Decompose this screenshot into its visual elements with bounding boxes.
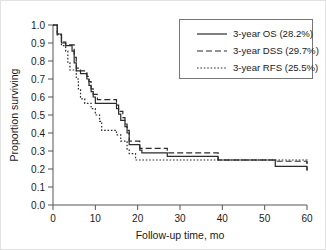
y-axis-tick-label: 0.3 (31, 146, 45, 157)
y-axis-tick-label: 0.6 (31, 92, 45, 103)
x-axis-tick-label: 40 (217, 213, 229, 224)
x-axis-tick-label: 0 (50, 213, 56, 224)
y-axis-tick-label: 0.1 (31, 182, 45, 193)
y-axis-tick-label: 0.2 (31, 164, 45, 175)
legend-label: 3-year RFS (25.5%) (233, 62, 318, 73)
x-axis-tick-label: 30 (174, 213, 186, 224)
kaplan-meier-plot: 0.00.10.20.30.40.50.60.70.80.91.0 010203… (1, 1, 326, 250)
x-axis-tick-label: 20 (132, 213, 144, 224)
legend-label: 3-year OS (28.2%) (233, 28, 313, 39)
y-axis-tick-label: 0.8 (31, 56, 45, 67)
x-axis-tick-label: 50 (259, 213, 271, 224)
y-axis-tick-label: 0.0 (31, 200, 45, 211)
x-axis-title: Follow-up time, mo (136, 229, 225, 241)
x-axis-tick-label: 10 (90, 213, 102, 224)
y-axis-title: Proportion surviving (8, 68, 20, 161)
x-axis-tick-label: 60 (301, 213, 313, 224)
x-axis-tick-group: 0102030405060 (50, 205, 313, 224)
legend-label: 3-year DSS (29.7%) (233, 45, 319, 56)
survival-chart-figure: 0.00.10.20.30.40.50.60.70.80.91.0 010203… (0, 0, 326, 250)
y-axis-tick-label: 1.0 (31, 20, 45, 31)
y-axis-tick-group: 0.00.10.20.30.40.50.60.70.80.91.0 (31, 20, 53, 211)
y-axis-tick-label: 0.5 (31, 110, 45, 121)
y-axis-tick-label: 0.4 (31, 128, 45, 139)
y-axis-tick-label: 0.9 (31, 38, 45, 49)
y-axis-tick-label: 0.7 (31, 74, 45, 85)
